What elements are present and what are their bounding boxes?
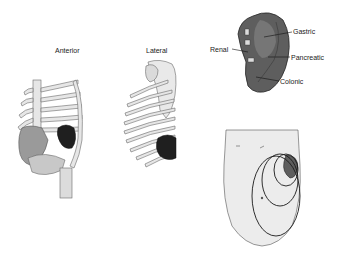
hilum-vessel	[245, 29, 249, 35]
umbilicus	[261, 197, 263, 199]
anatomy-illustration	[0, 0, 349, 256]
spleen-visceral-view	[232, 13, 292, 92]
lower-spine	[60, 168, 72, 198]
anterior-view	[18, 80, 82, 198]
abdomen-view	[224, 130, 301, 246]
hilum-vessel	[248, 58, 254, 62]
spleen-lateral	[156, 135, 176, 160]
hilum-vessel	[245, 40, 250, 45]
lateral-view	[124, 60, 176, 167]
stomach	[28, 154, 65, 174]
spleen-anterior	[57, 125, 75, 148]
